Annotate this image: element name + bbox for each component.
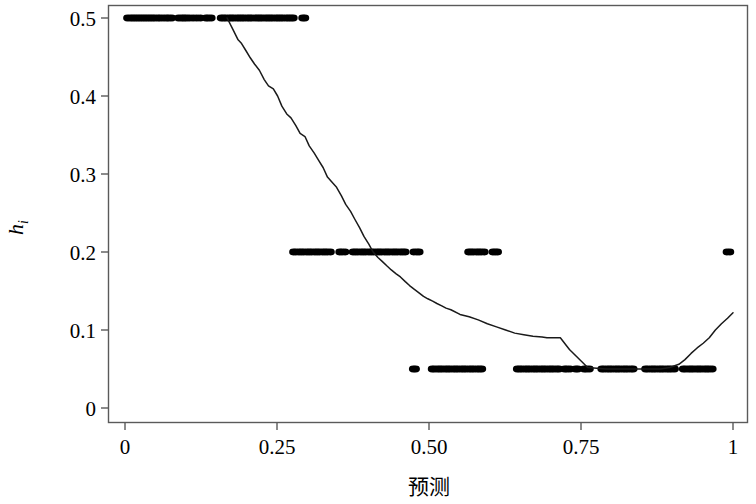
chart-figure: 0.5 0.4 0.3 0.2 0.1 0 0 0.25 0.50 0.75 1… (0, 0, 756, 504)
y-tick-label-0-3: 0.3 (34, 165, 96, 186)
y-tick-label-0-2: 0.2 (34, 243, 96, 264)
data-point (415, 249, 424, 256)
x-tick-label-0: 0 (120, 437, 131, 458)
data-point (341, 249, 350, 256)
smoother-line (227, 18, 733, 369)
data-point (708, 366, 717, 373)
data-point (726, 249, 735, 256)
data-point (493, 249, 502, 256)
y-axis-title: ˆhi (3, 220, 32, 235)
data-point (326, 249, 335, 256)
data-point (207, 15, 216, 22)
data-point (480, 249, 489, 256)
y-axis-title-hat: ˆ (0, 227, 13, 234)
y-tick-label-0-1: 0.1 (34, 321, 96, 342)
x-tick-label-0-50: 0.50 (411, 437, 448, 458)
data-point (411, 366, 420, 373)
plot-frame (109, 6, 748, 423)
x-axis-title: 预测 (408, 470, 450, 500)
y-axis-ticks (101, 18, 109, 408)
y-tick-label-0-4: 0.4 (34, 87, 96, 108)
scatter-points (123, 15, 734, 373)
x-axis-ticks (125, 423, 733, 431)
data-point (301, 15, 310, 22)
y-tick-label-0: 0 (34, 399, 96, 420)
x-tick-label-0-75: 0.75 (563, 437, 600, 458)
plot-canvas (0, 0, 756, 504)
data-point (478, 366, 487, 373)
x-tick-label-1: 1 (728, 437, 739, 458)
data-point (289, 15, 298, 22)
data-point (401, 249, 410, 256)
y-tick-label-0-5: 0.5 (34, 9, 96, 30)
x-tick-label-0-25: 0.25 (259, 437, 296, 458)
